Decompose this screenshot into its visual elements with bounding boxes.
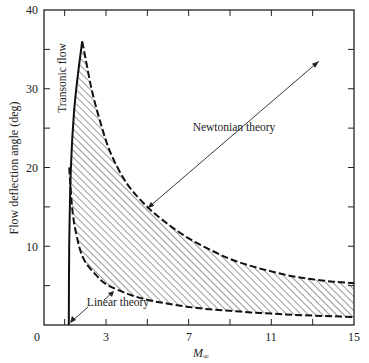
x-tick-15: 15	[348, 330, 360, 344]
x-tick-7: 7	[186, 330, 192, 344]
arrowhead-icon	[70, 316, 76, 323]
x-axis-label: M∞	[192, 346, 209, 361]
x-tick-3: 3	[103, 330, 109, 344]
x-tick-0: 0	[34, 330, 40, 344]
y-tick-40: 40	[26, 3, 38, 17]
transonic-flow-label: Transonic flow	[56, 43, 68, 113]
hatched-region	[69, 41, 354, 317]
y-tick-20: 20	[26, 161, 38, 175]
newtonian-theory-label: Newtonian theory	[193, 121, 276, 134]
linear-theory-label: Linear theory	[87, 296, 150, 309]
y-axis-label: Flow deflection angle (deg)	[7, 102, 21, 235]
newtonian-arrow	[147, 61, 319, 208]
y-tick-30: 30	[26, 82, 38, 96]
y-tick-10: 10	[26, 240, 38, 254]
x-tick-11: 11	[265, 330, 277, 344]
chart: 40 30 20 10 0 3 7 11 15 M∞ Flow deflecti…	[0, 0, 369, 363]
